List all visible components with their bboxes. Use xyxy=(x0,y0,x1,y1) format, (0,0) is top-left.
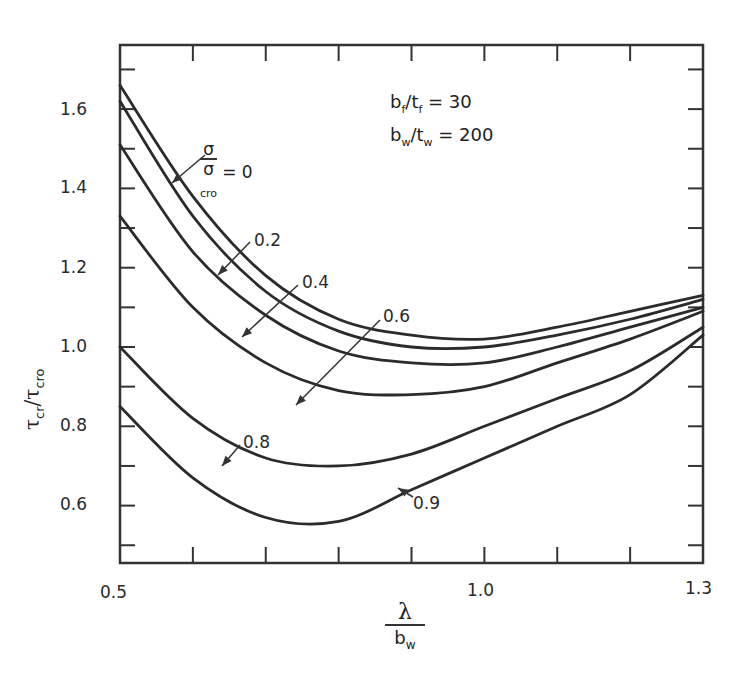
y-title-sub-cr: cr xyxy=(32,406,47,419)
chart-plot-area xyxy=(0,0,752,682)
curve-label-0.6: 0.6 xyxy=(383,306,410,326)
y-tick-0.6: 0.6 xyxy=(60,494,87,514)
curve-label-0.8: 0.8 xyxy=(243,432,270,452)
p2-b-sub: w xyxy=(424,136,433,149)
y-tick-1.6: 1.6 xyxy=(60,99,87,119)
curve-label-0.4: 0.4 xyxy=(302,272,329,292)
curve-label-0: σ σcro = 0 xyxy=(200,140,253,203)
axes-frame xyxy=(120,45,703,563)
curve-series-3 xyxy=(120,216,703,395)
x-tick-0.5: 0.5 xyxy=(100,582,127,602)
y-tick-1.0: 1.0 xyxy=(60,336,87,356)
x-title-b: b xyxy=(394,627,405,648)
curve-label-0.2: 0.2 xyxy=(254,230,281,250)
param-flange-ratio: bf/tf = 30 xyxy=(390,91,472,116)
y-tick-1.2: 1.2 xyxy=(60,257,87,277)
x-title-sub-w: w xyxy=(406,638,416,652)
x-tick-1.0: 1.0 xyxy=(467,580,494,600)
p2-val: = 200 xyxy=(433,124,494,145)
y-axis-title: τcr/τcro xyxy=(20,368,47,430)
y-title-tau: τ xyxy=(20,419,44,430)
p2-b: /t xyxy=(410,124,423,145)
x-axis-title: λ bw xyxy=(385,600,425,657)
p1-b: /t xyxy=(405,91,418,112)
p1-a: b xyxy=(390,91,401,112)
y-title-sub-cro: cro xyxy=(32,368,47,388)
plot-border xyxy=(120,45,703,563)
curve-label-0.9: 0.9 xyxy=(413,493,440,513)
frac-den-sub: cro xyxy=(200,187,217,200)
x-tick-1.3: 1.3 xyxy=(685,578,712,598)
leader-line-3 xyxy=(296,320,380,405)
x-title-numerator: λ xyxy=(385,600,425,626)
p2-a: b xyxy=(390,124,401,145)
legend-eq: = 0 xyxy=(222,162,252,182)
label-arrows xyxy=(172,155,413,497)
y-tick-1.4: 1.4 xyxy=(60,177,87,197)
x-title-denominator: bw xyxy=(385,626,425,657)
p1-val: = 30 xyxy=(422,91,471,112)
frac-num: σ xyxy=(200,140,217,160)
y-tick-0.8: 0.8 xyxy=(60,415,87,435)
y-title-div: /τ xyxy=(20,389,44,407)
param-web-ratio: bw/tw = 200 xyxy=(390,124,493,149)
frac-den-sigma: σ xyxy=(200,160,217,178)
sigma-ratio-fraction: σ σcro xyxy=(200,140,217,203)
frac-den: σcro xyxy=(200,160,217,203)
